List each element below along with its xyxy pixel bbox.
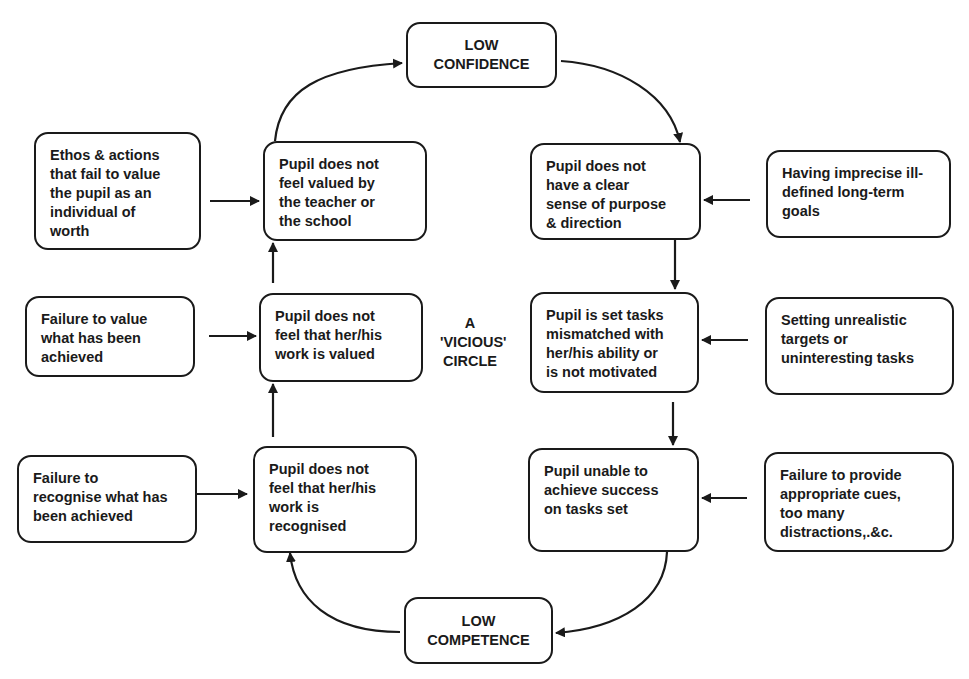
node-work-not-recognised: Pupil does not feel that her/his work is…	[253, 446, 417, 553]
low-competence-box: LOW COMPETENCE	[404, 597, 553, 664]
node-unable-to-succeed: Pupil unable to achieve success on tasks…	[528, 448, 699, 552]
arrow-competence-to-recognised	[290, 553, 400, 632]
arrow-unable-to-competence	[556, 552, 667, 633]
cause-unrealistic-targets: Setting unrealistic targets or uninteres…	[765, 297, 954, 395]
node-mismatched-tasks: Pupil is set tasks mismatched with her/h…	[530, 292, 699, 393]
cause-failure-to-value: Failure to value what has been achieved	[25, 296, 195, 377]
cause-no-cues-distractions: Failure to provide appropriate cues, too…	[764, 452, 954, 552]
arrow-confidence-to-purpose	[561, 61, 680, 142]
cause-failure-to-recognise: Failure to recognise what has been achie…	[17, 455, 197, 543]
node-work-not-valued: Pupil does not feel that her/his work is…	[259, 293, 423, 382]
node-not-valued-by-teacher: Pupil does not feel valued by the teache…	[263, 141, 427, 241]
arrow-valued-to-confidence	[275, 63, 402, 141]
vicious-circle-label: A 'VICIOUS' CIRCLE	[440, 314, 500, 371]
cause-imprecise-goals: Having imprecise ill- defined long-term …	[766, 150, 951, 238]
node-no-clear-purpose: Pupil does not have a clear sense of pur…	[530, 143, 701, 240]
cause-ethos-actions: Ethos & actions that fail to value the p…	[34, 132, 201, 250]
low-confidence-box: LOW CONFIDENCE	[406, 22, 557, 88]
